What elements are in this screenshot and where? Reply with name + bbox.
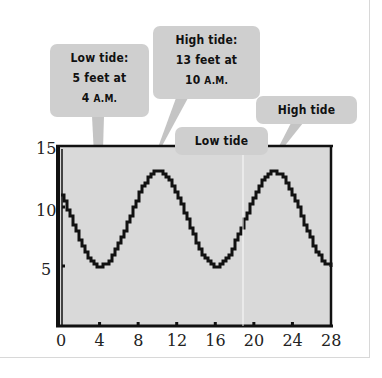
y-tick [62, 265, 65, 268]
y-tick [62, 206, 65, 209]
x-tick-label: 8 [133, 333, 143, 349]
callout-line: Low tide [195, 134, 249, 148]
x-tick-label: 28 [321, 333, 341, 349]
callout-high-tide-10am: High tide: 13 feet at 10 A.M. [153, 26, 260, 99]
x-tick [291, 322, 294, 325]
callout-line: 4 A.M. [50, 88, 149, 109]
callout-line: 5 feet at [50, 68, 149, 88]
y-tick-label: 10 [36, 203, 56, 219]
callout-line: 10 A.M. [153, 70, 260, 91]
x-tick [137, 322, 140, 325]
callout-line: Low tide: [50, 48, 149, 68]
callout-low-tide-4am: Low tide: 5 feet at 4 A.M. [50, 44, 149, 117]
x-tick-label: 12 [167, 333, 187, 349]
x-tick [175, 322, 178, 325]
x-tick-label: 20 [244, 333, 264, 349]
x-tick-label: 16 [205, 333, 225, 349]
x-tick [252, 322, 255, 325]
x-tick-label: 0 [56, 333, 66, 349]
y-tick-label: 5 [41, 262, 51, 278]
x-tick-label: 4 [95, 333, 105, 349]
callout-line: High tide: [153, 30, 260, 50]
tide-chart-figure: Low tide: 5 feet at 4 A.M. High tide: 13… [0, 0, 382, 378]
x-tick-label: 24 [282, 333, 302, 349]
callout-line: High tide [278, 103, 336, 117]
callout-line: 13 feet at [153, 50, 260, 70]
callout-low-tide: Low tide [175, 127, 268, 155]
callout-high-tide: High tide [256, 96, 357, 124]
x-tick [214, 322, 217, 325]
x-tick [98, 322, 101, 325]
y-tick-label: 15 [36, 141, 56, 157]
